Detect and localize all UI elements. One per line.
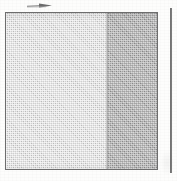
vertical-rule bbox=[170, 8, 172, 173]
region-dark bbox=[107, 13, 157, 169]
figure-canvas bbox=[0, 0, 177, 181]
halftone-panel bbox=[5, 12, 158, 170]
region-light bbox=[6, 13, 107, 169]
arrow-right-icon bbox=[27, 2, 54, 10]
